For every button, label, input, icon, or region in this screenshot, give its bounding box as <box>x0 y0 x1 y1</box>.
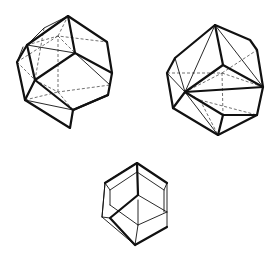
polyhedron-top-right <box>167 25 263 135</box>
polyhedron-top-left <box>17 16 112 128</box>
diagram-canvas <box>0 0 276 258</box>
polyhedron-bottom-center <box>102 163 167 245</box>
visible-edges <box>167 25 263 135</box>
visible-edges <box>102 163 167 245</box>
visible-edges <box>17 16 112 128</box>
